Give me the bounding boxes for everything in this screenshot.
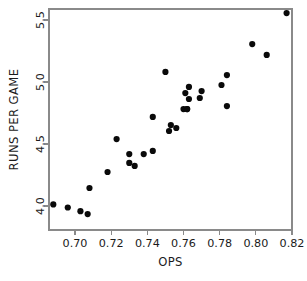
y-axis: 4.04.55.05.5	[34, 11, 49, 215]
data-point	[224, 103, 230, 109]
data-point	[182, 90, 188, 96]
data-point	[162, 69, 168, 75]
data-point	[65, 204, 71, 210]
data-point	[104, 169, 110, 175]
x-tick-label: 0.70	[63, 237, 88, 250]
data-point	[249, 41, 255, 47]
x-tick-label: 0.82	[280, 237, 305, 250]
data-point	[126, 151, 132, 157]
data-point	[132, 163, 138, 169]
data-point	[197, 95, 203, 101]
data-point	[126, 160, 132, 166]
data-point	[141, 151, 147, 157]
scatter-chart: 0.700.720.740.760.780.800.824.04.55.05.5…	[0, 0, 307, 281]
data-point	[168, 122, 174, 128]
data-point	[199, 88, 205, 94]
x-tick-label: 0.78	[207, 237, 232, 250]
data-point	[150, 148, 156, 154]
x-axis: 0.700.720.740.760.780.800.82	[63, 230, 305, 250]
data-point	[85, 211, 91, 217]
data-point	[283, 10, 289, 16]
data-point	[186, 96, 192, 102]
data-point	[114, 136, 120, 142]
plot-canvas: 0.700.720.740.760.780.800.824.04.55.05.5…	[0, 0, 307, 281]
y-tick-label: 4.0	[34, 197, 47, 215]
x-tick-label: 0.80	[243, 237, 268, 250]
y-axis-title: RUNS PER GAME	[7, 69, 21, 171]
data-point	[264, 52, 270, 58]
data-point	[218, 82, 224, 88]
x-tick-label: 0.74	[135, 237, 160, 250]
data-point	[86, 185, 92, 191]
data-point-group	[50, 10, 289, 217]
x-tick-label: 0.76	[171, 237, 196, 250]
axis-frame	[49, 9, 292, 230]
y-tick-label: 5.5	[34, 11, 47, 29]
x-axis-title: OPS	[158, 255, 183, 269]
data-point	[173, 125, 179, 131]
data-point	[166, 128, 172, 134]
data-point	[186, 84, 192, 90]
data-point	[224, 72, 230, 78]
x-tick-label: 0.72	[99, 237, 124, 250]
y-tick-label: 5.0	[34, 73, 47, 91]
data-point	[50, 201, 56, 207]
data-point	[184, 106, 190, 112]
data-point	[77, 208, 83, 214]
y-tick-label: 4.5	[34, 135, 47, 153]
data-point	[150, 114, 156, 120]
